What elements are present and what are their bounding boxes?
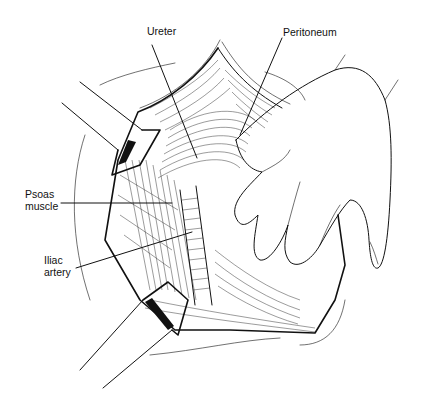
iliac-artery [180,186,212,305]
label-psoas-line2: muscle [25,200,58,212]
leader-lines [61,38,282,268]
incision-outline [105,48,345,333]
illustration-drawing [0,0,425,409]
incision-outer-edge-right [222,42,290,104]
retractor-upper [62,82,160,175]
iliac-leader [76,232,192,268]
muscle-fibers [118,111,255,300]
label-iliac-line2: artery [44,266,71,278]
peritoneum-hatching [150,60,275,130]
lower-tissue-fibers [145,250,315,332]
incision-outer-edge-left [140,40,220,108]
label-peritoneum: Peritoneum [283,26,337,38]
anatomical-illustration: Ureter Peritoneum Psoas muscle Iliac art… [0,0,425,409]
peritoneum-leader [240,38,282,135]
skin-contour-top-right [265,72,305,100]
label-ureter: Ureter [147,25,176,37]
skin-contour-left [74,135,90,300]
hand [235,55,398,268]
label-iliac-line1: Iliac [44,254,63,266]
skin-contour-right [300,300,345,345]
retractor-lower [80,282,188,388]
skin-contour-bottom [150,338,280,355]
label-psoas-line1: Psoas [25,188,54,200]
